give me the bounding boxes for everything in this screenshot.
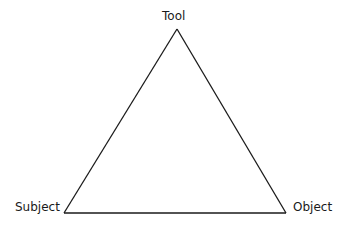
- triangle-diagram: [0, 0, 349, 226]
- node-label-subject: Subject: [15, 200, 60, 214]
- node-label-object: Object: [293, 200, 332, 214]
- edge-tool-subject: [64, 29, 177, 213]
- edge-object-tool: [177, 29, 286, 213]
- node-label-tool: Tool: [162, 9, 185, 23]
